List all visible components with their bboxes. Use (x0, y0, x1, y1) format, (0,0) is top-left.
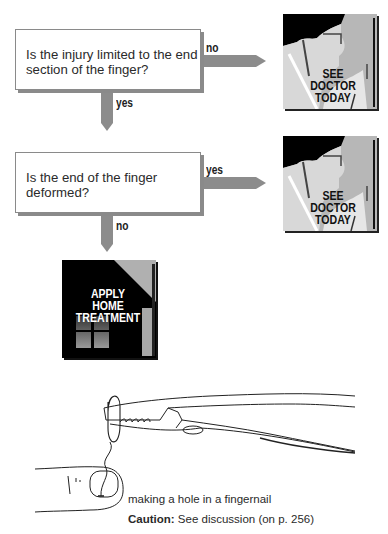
question-2-line-1: Is the end of the finger (26, 170, 157, 185)
caution-note: Caution: See discussion (on p. 256) (128, 513, 314, 525)
question-1-line-1: Is the injury limited to the end (26, 47, 198, 62)
see-doctor-today-label-1: SEE DOCTOR TODAY (307, 68, 360, 104)
see-doctor-today-icon-1: SEE DOCTOR TODAY (283, 14, 377, 109)
question-box-2: Is the end of the finger deformed? (15, 152, 201, 213)
branch-label-yes-1: yes (116, 96, 133, 110)
apply-home-treatment-label: APPLY HOME TREATMENT (73, 288, 143, 324)
home-line-3: TREATMENT (73, 312, 143, 324)
see-doctor-today-icon-2: SEE DOCTOR TODAY (283, 136, 377, 231)
arrow-right-2 (204, 177, 256, 189)
apply-home-treatment-icon: APPLY HOME TREATMENT (62, 260, 156, 358)
branch-label-no-2: no (116, 219, 128, 233)
caution-text: See discussion (on p. 256) (175, 513, 314, 525)
arrow-right-1 (204, 55, 256, 67)
question-2-text: Is the end of the finger deformed? (26, 170, 157, 200)
question-2-line-2: deformed? (26, 185, 157, 200)
arrow-down-1 (101, 93, 113, 123)
doctor-2-line-3: TODAY (307, 214, 360, 226)
question-1-text: Is the injury limited to the end section… (26, 47, 198, 77)
arrow-down-2 (101, 216, 113, 244)
caution-label: Caution: (128, 513, 175, 525)
see-doctor-today-label-2: SEE DOCTOR TODAY (307, 190, 360, 226)
question-box-1: Is the injury limited to the end section… (15, 29, 201, 90)
branch-label-yes-2: yes (206, 163, 223, 177)
question-1-line-2: section of the finger? (26, 62, 198, 77)
branch-label-no-1: no (206, 41, 218, 55)
illustration-caption: making a hole in a fingernail (128, 493, 271, 505)
doctor-1-line-3: TODAY (307, 92, 360, 104)
